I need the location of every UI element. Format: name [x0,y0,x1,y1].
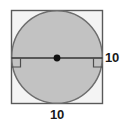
center-point-dot [54,55,61,62]
geometry-figure: 10 10 [0,0,120,126]
dimension-label-right: 10 [105,51,119,64]
dimension-label-bottom: 10 [50,108,64,121]
